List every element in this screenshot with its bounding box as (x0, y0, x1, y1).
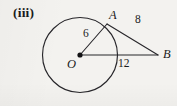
point-label-a: A (109, 9, 117, 22)
centre-point-marker-o (77, 52, 82, 57)
length-label-oa: 6 (83, 28, 89, 40)
length-label-ob: 12 (118, 58, 130, 70)
length-label-ab: 8 (135, 14, 141, 26)
part-label: (iii) (13, 6, 34, 20)
point-label-o: O (67, 58, 76, 71)
geometry-figure-iii: (iii) A B O 6 8 12 (0, 0, 177, 106)
point-label-b: B (163, 48, 171, 61)
